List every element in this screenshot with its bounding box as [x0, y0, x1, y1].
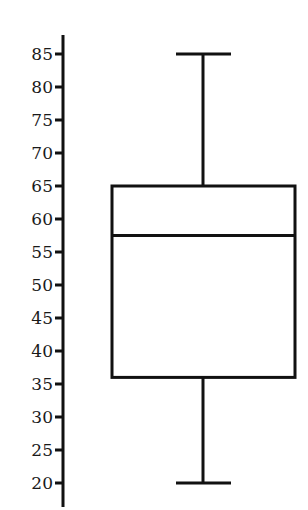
- iqr-box: [112, 186, 295, 377]
- y-tick-label: 75: [31, 110, 53, 130]
- y-tick-label: 70: [31, 143, 53, 163]
- y-tick-label: 40: [31, 341, 53, 361]
- y-tick-label: 60: [31, 209, 53, 229]
- y-tick-label: 50: [31, 275, 53, 295]
- y-tick-label: 80: [31, 77, 53, 97]
- y-tick-label: 45: [31, 308, 53, 328]
- y-axis: 2025303540455055606570758085: [31, 35, 63, 507]
- y-tick-label: 55: [31, 242, 53, 262]
- y-tick-label: 85: [31, 44, 53, 64]
- y-tick-label: 30: [31, 407, 53, 427]
- y-tick-label: 20: [31, 473, 53, 493]
- box-plot-chart: 2025303540455055606570758085: [0, 0, 308, 510]
- y-tick-label: 65: [31, 176, 53, 196]
- y-tick-label: 35: [31, 374, 53, 394]
- box-plot: [112, 54, 295, 483]
- y-tick-label: 25: [31, 440, 53, 460]
